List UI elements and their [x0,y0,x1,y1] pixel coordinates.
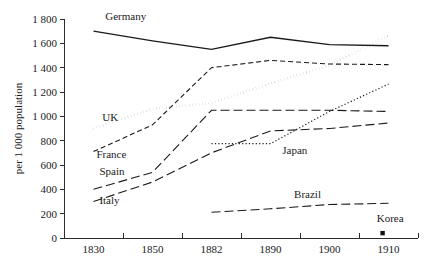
y-tick-label: 400 [41,183,58,195]
series-label-brazil: Brazil [294,188,321,200]
y-tick-label: 1 200 [32,86,57,98]
series-line-brazil [212,203,389,212]
series-line-italy [94,123,389,201]
series-line-france [94,60,389,151]
series-lines [94,31,389,235]
x-tick-label: 1830 [83,243,106,255]
y-axis-title-group: per 1 000 population [12,82,24,174]
y-axis-title: per 1 000 population [12,82,24,174]
y-tick-label: 800 [41,135,58,147]
y-tick-label: 0 [52,232,58,244]
axes: 02004006008001 0001 2001 4001 6001 80018… [32,13,418,255]
y-tick-label: 1 600 [32,37,57,49]
x-tick-label: 1910 [378,243,401,255]
series-line-germany [94,31,389,49]
series-line-uk [94,35,389,128]
y-tick-label: 1 800 [32,13,57,25]
y-tick-label: 600 [41,159,58,171]
series-point-korea [380,231,384,235]
line-chart: 02004006008001 0001 2001 4001 6001 80018… [0,0,428,267]
series-label-uk: UK [102,111,118,123]
series-label-spain: Spain [99,165,125,177]
series-labels: GermanyUKFranceSpainItalyJapanBrazilKore… [96,10,403,224]
y-tick-label: 1 400 [32,62,57,74]
x-tick-label: 1900 [319,243,342,255]
x-tick-label: 1850 [142,243,165,255]
y-tick-label: 200 [41,208,58,220]
y-tick-label: 1 000 [32,110,57,122]
x-tick-label: 1890 [260,243,283,255]
series-line-japan [212,84,389,144]
series-line-spain [94,110,389,189]
chart-container: 02004006008001 0001 2001 4001 6001 80018… [0,0,428,267]
series-label-italy: Italy [99,194,120,206]
series-label-germany: Germany [105,10,146,22]
series-label-japan: Japan [282,144,308,156]
x-tick-label: 1882 [201,243,223,255]
series-label-france: France [96,148,126,160]
series-label-korea: Korea [377,212,404,224]
